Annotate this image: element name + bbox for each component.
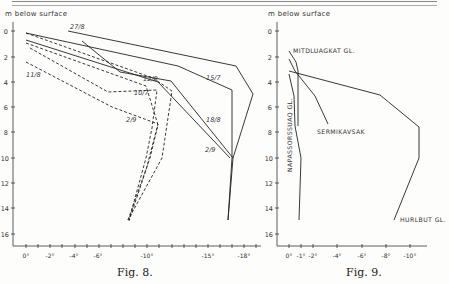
- fig9-axes: [275, 22, 427, 248]
- svg-text:6: 6: [268, 104, 272, 112]
- label-10-7: 10/7: [134, 89, 149, 97]
- fig8-caption: Fig. 8.: [117, 266, 153, 279]
- svg-text:16: 16: [1, 231, 9, 239]
- svg-text:6: 6: [4, 104, 8, 112]
- svg-text:-1°: -1°: [297, 252, 306, 259]
- svg-text:-6°: -6°: [358, 252, 367, 259]
- svg-text:2: 2: [4, 54, 8, 62]
- series-15-7: [26, 33, 232, 220]
- label-napassorssuaq: NAPASSORSSUAQ GL.: [286, 98, 293, 172]
- label-11-8: 11/8: [26, 71, 41, 79]
- label-2-9-dashed: 2/9: [126, 116, 136, 124]
- label-sermikavsak: SERMIKAVSAK: [317, 128, 366, 135]
- svg-text:0: 0: [268, 28, 272, 36]
- fig9-caption: Fig. 9.: [346, 266, 382, 279]
- svg-text:10: 10: [265, 155, 273, 163]
- svg-text:2: 2: [268, 54, 272, 62]
- svg-text:14: 14: [265, 205, 273, 213]
- series-11-8: [26, 62, 158, 221]
- svg-text:8: 8: [4, 129, 8, 137]
- svg-text:-10°: -10°: [404, 252, 417, 259]
- svg-text:8: 8: [268, 129, 272, 137]
- svg-text:0: 0: [4, 28, 8, 36]
- svg-text:-8°: -8°: [382, 252, 391, 259]
- label-12-8: 12/8: [143, 75, 158, 83]
- svg-text:0°: 0°: [286, 252, 293, 259]
- svg-text:14: 14: [1, 205, 9, 213]
- svg-text:4: 4: [268, 79, 272, 87]
- svg-text:-4°: -4°: [333, 252, 342, 259]
- series-2-9-solid: [26, 40, 230, 158]
- fig9-y-tick-labels: 0 2 4 6 8 10 12 14 16: [265, 28, 273, 239]
- svg-text:-18°: -18°: [238, 252, 251, 259]
- svg-text:-4°: -4°: [70, 252, 79, 259]
- label-18-8: 18/8: [206, 116, 221, 124]
- fig8-dashed-series: [26, 33, 172, 221]
- fig8-y-tick-labels: 0 2 4 6 8 10 12 14 16: [1, 28, 9, 239]
- svg-text:-6°: -6°: [94, 252, 103, 259]
- fig9-curve-labels: MITDLUAGKAT GL. SERMIKAVSAK NAPASSORSSUA…: [286, 47, 446, 223]
- figures-canvas: 0 2 4 6 8 10 12 14 16 0° -2° -4° -6° -10…: [0, 0, 449, 284]
- svg-text:4: 4: [4, 79, 8, 87]
- svg-text:0°: 0°: [23, 252, 30, 259]
- fig8-solid-series: [26, 31, 253, 220]
- svg-text:16: 16: [265, 231, 273, 239]
- fig9-series: [289, 51, 419, 220]
- series-hurlbut: [289, 71, 419, 220]
- svg-text:10: 10: [1, 155, 9, 163]
- series-27-8: [68, 31, 253, 220]
- label-mitdluagkat: MITDLUAGKAT GL.: [293, 47, 355, 54]
- label-2-9-solid: 2/9: [205, 146, 215, 154]
- svg-text:-2°: -2°: [309, 252, 318, 259]
- svg-text:12: 12: [1, 180, 9, 188]
- label-hurlbut: HURLBUT GL.: [400, 216, 446, 223]
- fig8-axes: [11, 22, 261, 248]
- series-18-8: [82, 41, 233, 158]
- svg-text:-15°: -15°: [202, 252, 215, 259]
- label-27-8: 27/8: [70, 23, 85, 31]
- series-10-7: [26, 43, 158, 220]
- fig8-x-tick-labels: 0° -2° -4° -6° -10° -15° -18°: [23, 252, 251, 259]
- svg-text:-2°: -2°: [46, 252, 55, 259]
- label-15-7: 15/7: [206, 74, 221, 82]
- fig9-x-tick-labels: 0° -1° -2° -4° -6° -8° -10°: [286, 252, 417, 259]
- series-12-8: [26, 33, 172, 220]
- svg-text:12: 12: [265, 180, 273, 188]
- svg-text:-10°: -10°: [141, 252, 154, 259]
